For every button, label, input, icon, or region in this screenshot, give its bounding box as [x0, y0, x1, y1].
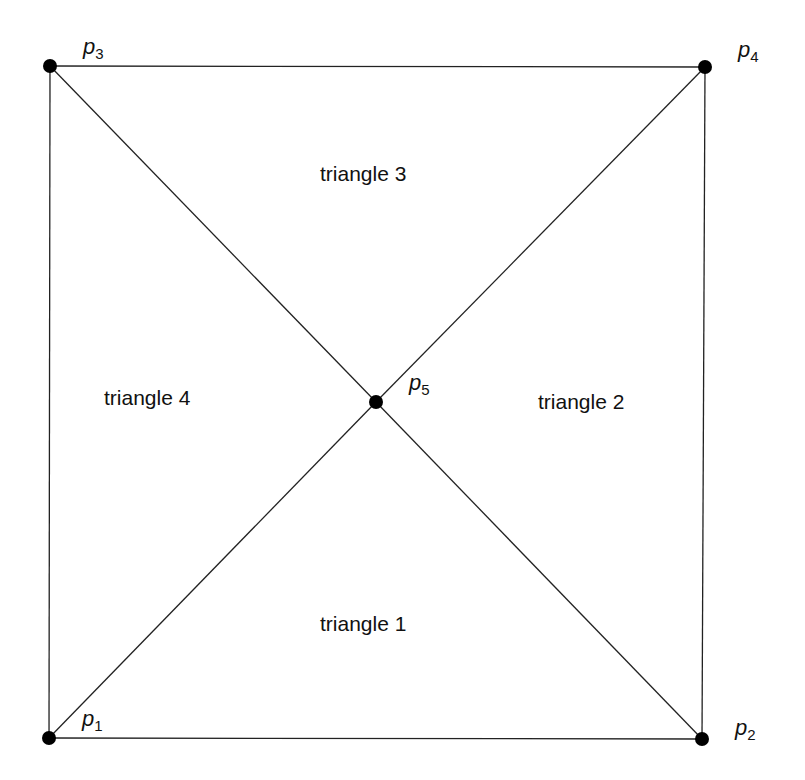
edge-p1-p3 [49, 66, 50, 738]
region-label-triangle-2: triangle 2 [538, 390, 624, 414]
label-p4: p4 [738, 37, 759, 65]
label-p5: p5 [409, 370, 430, 398]
label-p1: p1 [82, 706, 103, 734]
point-p1 [42, 731, 56, 745]
edge-p5-p2 [376, 402, 702, 739]
point-p4 [698, 60, 712, 74]
label-p2: p2 [735, 715, 756, 743]
point-p5 [369, 395, 383, 409]
point-p3 [43, 59, 57, 73]
edge-p3-p5 [50, 66, 376, 402]
region-label-triangle-4: triangle 4 [104, 386, 190, 410]
region-label-triangle-3: triangle 3 [320, 162, 406, 186]
edge-p3-p4 [50, 66, 705, 67]
edge-p1-p5 [49, 402, 376, 738]
region-label-triangle-1: triangle 1 [320, 612, 406, 636]
label-p3: p3 [83, 34, 104, 62]
edge-p5-p4 [376, 67, 705, 402]
edge-p2-p1 [49, 738, 702, 739]
edge-p4-p2 [702, 67, 705, 739]
point-p2 [695, 732, 709, 746]
